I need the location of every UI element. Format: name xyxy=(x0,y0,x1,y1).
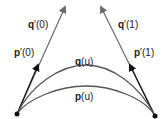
label-p-prime-0: p′(0) xyxy=(14,48,34,58)
label-q-prime-0: q′(0) xyxy=(28,20,48,30)
label-p-u: p(u) xyxy=(75,92,93,102)
endpoint-start xyxy=(15,112,20,117)
label-q-prime-1: q′(1) xyxy=(118,20,138,30)
endpoint-end xyxy=(153,114,158,119)
label-p-prime-1: p′(1) xyxy=(134,48,154,58)
label-q-u: q(u) xyxy=(75,57,93,67)
